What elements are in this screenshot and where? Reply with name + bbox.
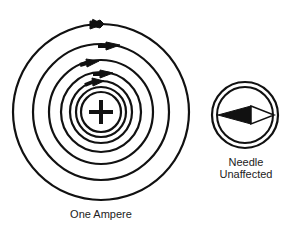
- compass-icon: [212, 82, 278, 148]
- conductor-plus-icon: [89, 100, 113, 124]
- field-diagram: [0, 0, 302, 235]
- compass-needle-light: [251, 106, 274, 124]
- current-label: One Ampere: [56, 208, 146, 220]
- needle-label-line2: Unaffected: [216, 168, 276, 180]
- needle-label-line1: Needle: [216, 156, 276, 168]
- compass-needle-dark: [218, 106, 251, 124]
- needle-label: Needle Unaffected: [216, 156, 276, 180]
